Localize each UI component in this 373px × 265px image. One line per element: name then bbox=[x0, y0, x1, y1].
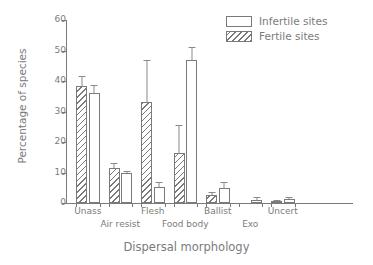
x-tick-label: Uncert bbox=[243, 206, 323, 216]
error-bar bbox=[271, 200, 282, 201]
y-tick-label: 50 bbox=[40, 46, 66, 55]
error-bar bbox=[109, 163, 120, 168]
bar bbox=[109, 168, 120, 203]
error-bar bbox=[76, 76, 87, 85]
bar bbox=[174, 153, 185, 203]
bar bbox=[284, 199, 295, 203]
bar-chart-figure: 0102030405060 Percentage of species Unas… bbox=[0, 0, 373, 265]
error-bar bbox=[141, 60, 152, 102]
error-bar bbox=[174, 125, 185, 153]
y-tick-label: 60 bbox=[40, 15, 66, 24]
x-tick-label: Exo bbox=[210, 219, 290, 229]
bar bbox=[186, 60, 197, 203]
x-axis-title: Dispersal morphology bbox=[0, 240, 373, 254]
y-tick-label: 30 bbox=[40, 107, 66, 116]
y-tick-label: 40 bbox=[40, 76, 66, 85]
error-bar bbox=[284, 197, 295, 200]
error-bar bbox=[206, 192, 217, 195]
legend-swatch bbox=[226, 16, 252, 27]
bar bbox=[141, 102, 152, 203]
bar bbox=[206, 195, 217, 203]
plot-area bbox=[66, 20, 353, 203]
error-bar bbox=[186, 47, 197, 59]
bar bbox=[251, 200, 262, 203]
y-axis-title: Percentage of species bbox=[16, 31, 28, 181]
legend-label: Fertile sites bbox=[259, 30, 319, 42]
error-bar bbox=[251, 197, 262, 200]
legend-swatch bbox=[226, 31, 252, 42]
error-bar bbox=[219, 182, 230, 189]
bar bbox=[121, 173, 132, 203]
bar bbox=[76, 86, 87, 203]
bar bbox=[89, 93, 100, 203]
legend-label: Infertile sites bbox=[259, 15, 327, 27]
error-bar bbox=[121, 171, 132, 173]
bar bbox=[219, 188, 230, 203]
bar bbox=[154, 187, 165, 203]
error-bar bbox=[154, 182, 165, 187]
y-tick-label: 10 bbox=[40, 168, 66, 177]
error-bar bbox=[89, 85, 100, 93]
y-tick-label: 20 bbox=[40, 137, 66, 146]
